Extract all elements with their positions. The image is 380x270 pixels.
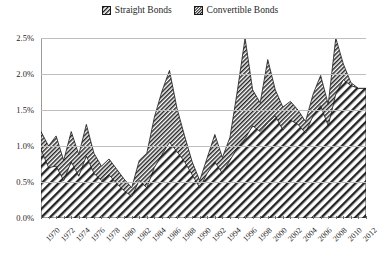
legend-entry-straight-bonds[interactable]: Straight Bonds xyxy=(102,5,172,15)
x-axis-tick xyxy=(41,216,42,219)
x-axis-tick xyxy=(139,216,140,219)
x-axis-tick xyxy=(132,216,133,219)
y-axis-tick-label: 0.5% xyxy=(16,178,34,187)
x-axis-tick xyxy=(215,216,216,219)
x-axis-tick xyxy=(154,216,155,219)
x-axis-tick xyxy=(268,216,269,219)
x-axis-tick-label: 1990 xyxy=(195,226,213,244)
x-axis-tick-label: 1992 xyxy=(210,226,228,244)
legend-swatch-fine-hatch-icon xyxy=(194,6,203,15)
x-axis-tick xyxy=(185,216,186,219)
x-axis-tick-label: 1994 xyxy=(225,226,243,244)
x-axis-tick-label: 1976 xyxy=(89,226,107,244)
x-axis-tick xyxy=(351,216,352,219)
x-axis-tick-label: 2004 xyxy=(301,226,319,244)
x-axis-tick xyxy=(56,216,57,219)
gridline xyxy=(41,74,366,75)
x-axis-tick xyxy=(109,216,110,219)
x-axis-tick-label: 2012 xyxy=(361,226,379,244)
x-axis-tick xyxy=(358,216,359,219)
area-chart: Straight Bonds Convertible Bonds 0.0%0.5… xyxy=(0,0,380,270)
x-axis-tick xyxy=(169,216,170,219)
x-axis-tick xyxy=(245,216,246,219)
x-axis-tick xyxy=(124,216,125,219)
x-axis-tick xyxy=(238,216,239,219)
x-axis-tick xyxy=(192,216,193,219)
x-axis-tick xyxy=(366,216,367,219)
x-axis-tick-label: 1970 xyxy=(44,226,62,244)
gridline xyxy=(41,110,366,111)
x-axis-tick xyxy=(343,216,344,219)
x-axis-tick xyxy=(64,216,65,219)
y-axis-tick-label: 1.0% xyxy=(16,142,34,151)
plot-area xyxy=(41,38,366,218)
gridline xyxy=(41,38,366,39)
x-axis-tick-label: 2008 xyxy=(331,226,349,244)
x-axis-tick xyxy=(79,216,80,219)
x-axis-tick xyxy=(298,216,299,219)
x-axis-tick-label: 1998 xyxy=(256,226,274,244)
x-axis-tick xyxy=(222,216,223,219)
legend-label-convertible-bonds: Convertible Bonds xyxy=(207,5,279,15)
x-axis-tick xyxy=(336,216,337,219)
chart-legend: Straight Bonds Convertible Bonds xyxy=(0,3,380,17)
gridline xyxy=(41,146,366,147)
x-axis-tick-label: 1974 xyxy=(74,226,92,244)
legend-label-straight-bonds: Straight Bonds xyxy=(115,5,172,15)
x-axis-tick xyxy=(71,216,72,219)
legend-swatch-coarse-hatch-icon xyxy=(102,6,111,15)
x-axis-tick xyxy=(328,216,329,219)
y-axis-tick-label: 1.5% xyxy=(16,106,34,115)
x-axis-tick xyxy=(260,216,261,219)
x-axis-tick-label: 2000 xyxy=(271,226,289,244)
x-axis-tick-label: 1978 xyxy=(104,226,122,244)
x-axis-tick xyxy=(177,216,178,219)
x-axis-tick-label: 1982 xyxy=(135,226,153,244)
x-axis-tick-label: 2006 xyxy=(316,226,334,244)
x-axis-tick-label: 2002 xyxy=(286,226,304,244)
y-axis-labels: 0.0%0.5%1.0%1.5%2.0%2.5% xyxy=(0,38,38,218)
x-axis-tick xyxy=(283,216,284,219)
legend-entry-convertible-bonds[interactable]: Convertible Bonds xyxy=(194,5,279,15)
x-axis-tick xyxy=(313,216,314,219)
x-axis-tick xyxy=(275,216,276,219)
x-axis-tick xyxy=(94,216,95,219)
x-axis-tick xyxy=(253,216,254,219)
series-layers xyxy=(41,38,366,218)
x-axis-tick-label: 1988 xyxy=(180,226,198,244)
x-axis-tick xyxy=(49,216,50,219)
y-axis-tick-label: 0.0% xyxy=(16,214,34,223)
x-axis-tick xyxy=(207,216,208,219)
x-axis-tick xyxy=(147,216,148,219)
x-axis-tick-label: 2010 xyxy=(346,226,364,244)
x-axis-tick-label: 1984 xyxy=(150,226,168,244)
x-axis-tick xyxy=(101,216,102,219)
x-axis-tick-label: 1996 xyxy=(241,226,259,244)
x-axis-tick xyxy=(230,216,231,219)
x-axis-tick xyxy=(117,216,118,219)
x-axis-tick xyxy=(290,216,291,219)
x-axis-tick xyxy=(200,216,201,219)
x-axis-tick xyxy=(162,216,163,219)
x-axis-tick-label: 1986 xyxy=(165,226,183,244)
x-axis-labels: 1970197219741976197819801982198419861988… xyxy=(41,220,366,266)
y-axis-tick-label: 2.5% xyxy=(16,34,34,43)
x-axis-tick xyxy=(306,216,307,219)
gridline xyxy=(41,182,366,183)
x-axis-tick-label: 1980 xyxy=(120,226,138,244)
x-axis-tick xyxy=(321,216,322,219)
y-axis-tick-label: 2.0% xyxy=(16,70,34,79)
x-axis-tick xyxy=(86,216,87,219)
x-axis-tick-label: 1972 xyxy=(59,226,77,244)
